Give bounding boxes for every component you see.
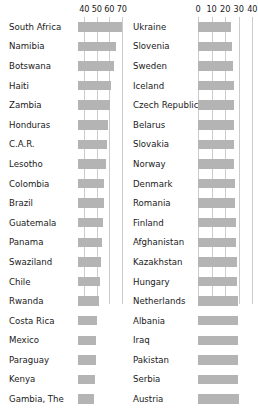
category-label: Honduras [9,120,50,130]
category-label: Afghanistan [133,237,184,247]
category-label-row: Honduras [0,115,74,135]
category-label-row: Afghanistan [128,233,194,253]
axis-tick-label: 40 [79,4,89,15]
bar-row [78,37,128,57]
bar-row [198,115,255,135]
category-label: Romania [133,198,171,208]
bar-row [198,331,255,351]
bar-row [78,389,128,408]
category-label-row: Botswana [0,56,74,76]
bar [78,198,104,208]
bar-row [78,193,128,213]
category-label: Austria [133,394,163,404]
category-label-row: Gambia, The [0,389,74,408]
left-chart-panel: 40506070 South AfricaNamibiaBotswanaHait… [0,0,128,304]
left-x-axis: 40506070 [0,4,128,17]
bar-row [198,76,255,96]
bar-row [78,272,128,292]
bar [198,355,238,365]
category-label-row: Kazakhstan [128,252,194,272]
bar [78,375,95,385]
bar [78,179,104,189]
category-label-row: Mexico [0,331,74,351]
category-label: Zambia [9,100,42,110]
bar-row [78,213,128,233]
bar-row [78,291,128,311]
category-label: Colombia [9,179,49,189]
bar-row [78,76,128,96]
category-label: Serbia [133,374,160,384]
category-label: Netherlands [133,296,185,306]
category-label: Gambia, The [9,394,64,404]
axis-tick-label: 20 [220,4,230,15]
category-label: Finland [133,218,164,228]
category-label: Slovenia [133,41,170,51]
category-label: Slovakia [133,139,169,149]
category-label: Kenya [9,374,35,384]
category-label-row: Ukraine [128,17,194,37]
bar [198,42,232,52]
category-label-row: Colombia [0,174,74,194]
bar [198,277,237,287]
right-category-labels: UkraineSloveniaSwedenIcelandCzech Republ… [128,17,194,304]
axis-tick-label: 30 [234,4,244,15]
category-label: Ukraine [133,22,166,32]
right-plot-area [198,17,255,304]
category-label-row: Slovakia [128,135,194,155]
axis-tick-label: 0 [195,4,200,15]
bar [198,296,238,306]
category-label-row: Austria [128,389,194,408]
bar [198,375,238,385]
category-label: Namibia [9,41,45,51]
category-label-row: Paraguay [0,350,74,370]
category-label-row: C.A.R. [0,135,74,155]
category-label-row: Iraq [128,331,194,351]
bar-row [198,233,255,253]
category-label-row: Pakistan [128,350,194,370]
axis-tick-label: 50 [92,4,102,15]
category-label-row: Lesotho [0,154,74,174]
category-label-row: Kenya [0,370,74,390]
bar [198,336,238,346]
category-label-row: Zambia [0,95,74,115]
bar [78,42,116,52]
bar [198,218,236,228]
bar-row [78,95,128,115]
category-label-row: Guatemala [0,213,74,233]
category-label-row: Panama [0,233,74,253]
category-label-row: Belarus [128,115,194,135]
bar [78,22,122,32]
bar-row [198,17,255,37]
category-label-row: Albania [128,311,194,331]
bar-row [78,311,128,331]
category-label-row: Hungary [128,272,194,292]
category-label-row: Romania [128,193,194,213]
category-label-row: Brazil [0,193,74,213]
axis-tick-label: 60 [104,4,114,15]
bar-row [198,37,255,57]
category-label-row: Chile [0,272,74,292]
bar-row [198,291,255,311]
axis-tick-label: 70 [117,4,127,15]
bar-row [78,115,128,135]
bar-row [78,135,128,155]
left-plot-area [78,17,128,304]
category-label: Hungary [133,277,170,287]
bar [78,61,114,71]
category-label: Botswana [9,61,51,71]
bar [78,218,103,228]
category-label: Guatemala [9,218,56,228]
bar-row [198,389,255,408]
bar [78,140,107,150]
category-label: C.A.R. [9,139,35,149]
category-label-row: Haiti [0,76,74,96]
bar [78,159,106,169]
category-label-row: Czech Republic [128,95,194,115]
category-label: Belarus [133,120,165,130]
bar [78,316,97,326]
category-label: Panama [9,237,43,247]
left-category-labels: South AfricaNamibiaBotswanaHaitiZambiaHo… [0,17,74,304]
bar-row [198,252,255,272]
category-label-row: Iceland [128,76,194,96]
category-label: Chile [9,277,31,287]
